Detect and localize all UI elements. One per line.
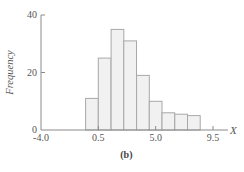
y-ticks: 02040 (27, 9, 45, 135)
histogram-bar-6 (149, 101, 162, 130)
histogram-bar-3 (111, 29, 124, 130)
bars-group (86, 29, 201, 130)
histogram-bar-7 (162, 113, 175, 130)
histogram-bar-5 (137, 75, 150, 130)
x-axis-label: X (229, 124, 238, 136)
x-tick-label: -4.0 (33, 132, 49, 143)
x-tick-label: 0.5 (92, 132, 105, 143)
histogram-bar-4 (124, 41, 137, 130)
histogram-bar-9 (188, 116, 201, 130)
x-tick-label: 9.5 (207, 132, 220, 143)
histogram-chart: 02040 -4.00.55.09.5 Frequency X (b) (0, 0, 244, 172)
histogram-bar-8 (175, 114, 188, 130)
histogram-bar-1 (86, 98, 99, 130)
figure-caption: (b) (120, 149, 132, 161)
histogram-bar-2 (98, 58, 111, 130)
y-tick-label: 40 (27, 9, 37, 20)
y-tick-label: 20 (27, 67, 37, 78)
x-tick-label: 5.0 (149, 132, 162, 143)
y-axis-label: Frequency (4, 50, 15, 96)
